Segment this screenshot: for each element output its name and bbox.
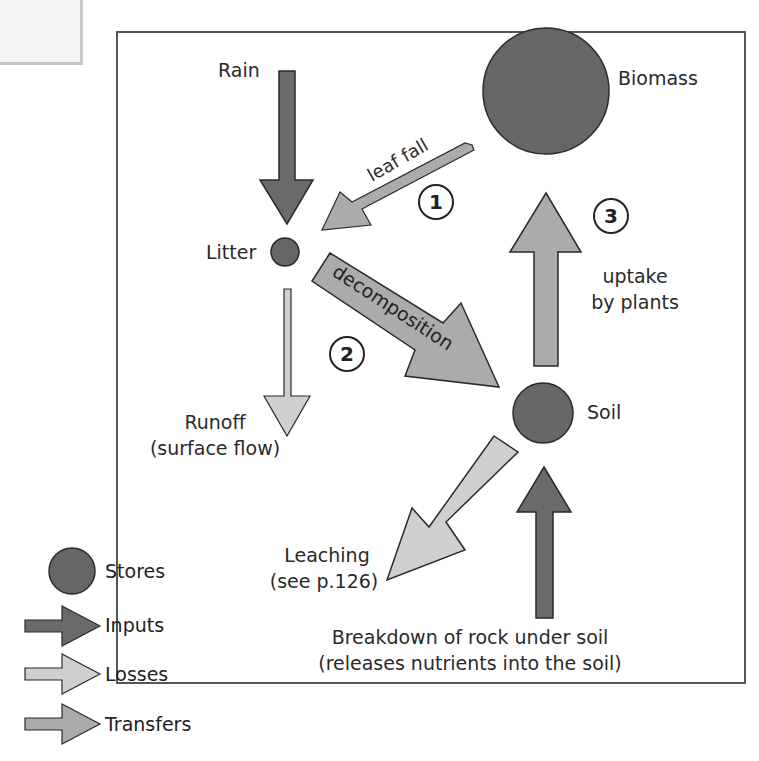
number-badge-3: 3 [593,198,629,234]
soil-store [513,383,573,443]
rain-arrow [260,71,313,224]
litter-label: Litter [206,240,256,264]
rock-breakdown-arrow [517,467,571,618]
legend-item-transfers: Transfers [105,713,191,735]
key-transfer-arrow-icon [25,704,100,744]
leaching-arrow [387,436,518,580]
biomass-store [483,28,609,154]
number-badge-2: 2 [329,336,365,372]
legend-item-losses: Losses [105,663,168,685]
key-loss-arrow-icon [25,654,100,694]
leaching-label-line2: (see p.126) [254,569,394,593]
soil-label: Soil [587,400,621,424]
rain-label: Rain [218,58,260,82]
biomass-label: Biomass [618,66,698,90]
breakdown-label-line1: Breakdown of rock under soil [280,625,660,649]
uptake-label-line2: by plants [577,290,693,314]
runoff-label-line2: (surface flow) [145,436,285,460]
key-input-arrow-icon [25,606,100,646]
legend-item-inputs: Inputs [105,614,164,636]
breakdown-label-line2: (releases nutrients into the soil) [270,651,670,675]
leaching-label-line1: Leaching [262,543,392,567]
key-store-icon [49,548,95,594]
uptake-arrow [510,193,581,366]
litter-store [271,238,299,266]
legend-item-stores: Stores [105,560,165,582]
runoff-label-line1: Runoff [150,410,280,434]
number-badge-1: 1 [418,184,454,220]
uptake-label-line1: uptake [595,264,675,288]
